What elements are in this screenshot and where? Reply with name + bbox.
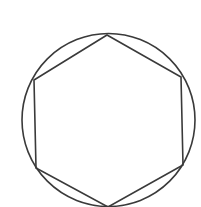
circumscribed-circle xyxy=(22,34,195,207)
hexagon xyxy=(34,35,183,207)
diagram-canvas xyxy=(0,0,201,207)
inscribed-hexagon-figure xyxy=(0,0,201,207)
